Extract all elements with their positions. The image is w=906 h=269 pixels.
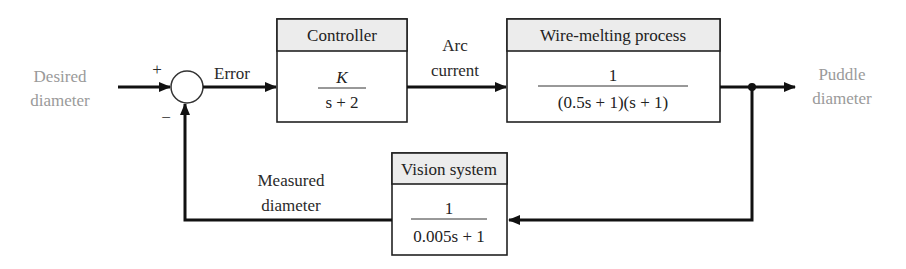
arc-label-line2: current	[431, 61, 479, 80]
svg-text:Desired: Desired	[34, 67, 87, 86]
process-numerator: 1	[609, 66, 618, 85]
process-block: Wire-melting process 1 (0.5s + 1)(s + 1)	[507, 19, 720, 122]
sensor-title: Vision system	[401, 160, 497, 179]
arc-label-line1: Arc	[442, 36, 468, 55]
block-diagram: Desired diameter + − Error Controller K …	[0, 0, 906, 269]
sensor-numerator: 1	[445, 199, 454, 218]
process-denominator: (0.5s + 1)(s + 1)	[558, 93, 668, 112]
feedback-label-line2: diameter	[261, 196, 321, 215]
feedback-label-line1: Measured	[257, 171, 325, 190]
error-label: Error	[214, 64, 250, 83]
svg-text:Puddle: Puddle	[818, 65, 865, 84]
plus-sign: +	[152, 60, 162, 79]
controller-block: Controller K s + 2	[277, 19, 407, 122]
summing-junction	[171, 71, 203, 103]
svg-text:diameter: diameter	[812, 89, 872, 108]
input-label: Desired diameter	[30, 67, 90, 110]
minus-sign: −	[161, 108, 171, 127]
sensor-block: Vision system 1 0.005s + 1	[392, 153, 507, 255]
svg-text:diameter: diameter	[30, 91, 90, 110]
controller-numerator: K	[335, 68, 349, 87]
controller-title: Controller	[307, 26, 377, 45]
sensor-denominator: 0.005s + 1	[413, 227, 484, 246]
controller-denominator: s + 2	[325, 93, 358, 112]
process-title: Wire-melting process	[540, 26, 686, 45]
output-label: Puddle diameter	[812, 65, 872, 108]
